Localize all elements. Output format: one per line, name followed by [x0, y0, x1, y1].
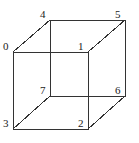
edge-0-4 [13, 20, 50, 52]
vertex-label-7: 7 [40, 85, 46, 96]
vertex-label-3: 3 [3, 118, 9, 129]
edge-2-6 [88, 96, 125, 129]
vertex-label-1: 1 [78, 41, 84, 52]
edge-3-7 [13, 96, 50, 129]
cube-diagram: 01234567 [0, 0, 139, 143]
cube-edges-group [13, 20, 125, 129]
vertex-label-4: 4 [40, 9, 46, 20]
cube-wireframe-svg [0, 0, 139, 143]
vertex-label-6: 6 [115, 85, 121, 96]
vertex-label-2: 2 [78, 118, 84, 129]
vertex-label-5: 5 [115, 9, 121, 20]
edge-1-5 [88, 20, 125, 52]
vertex-label-0: 0 [3, 41, 9, 52]
